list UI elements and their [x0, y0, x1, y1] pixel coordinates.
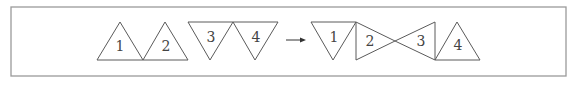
after-triangle-2-right [356, 22, 395, 60]
after-triangle-label: 4 [454, 37, 463, 53]
before-triangle-label: 2 [162, 38, 171, 54]
after-arrangement: 1234 [311, 22, 480, 60]
triangle-rearrangement-diagram: 1234 1234 [0, 0, 574, 86]
after-triangle-3-left [395, 22, 435, 60]
before-triangle-label: 3 [207, 29, 216, 45]
before-arrangement: 1234 [97, 22, 278, 60]
before-triangle-label: 1 [116, 38, 125, 54]
before-triangle-label: 4 [252, 29, 261, 45]
diagram-frame [11, 7, 566, 76]
arrow-right-icon [300, 38, 306, 43]
after-triangle-label: 3 [417, 33, 426, 49]
after-triangle-label: 2 [366, 33, 375, 49]
after-triangle-label: 1 [330, 29, 339, 45]
transform-arrow [286, 38, 306, 43]
